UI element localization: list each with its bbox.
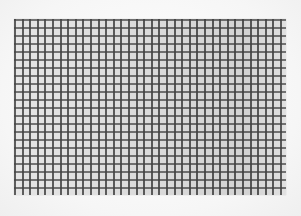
photo-background <box>0 0 301 216</box>
lighting-shade <box>14 19 286 195</box>
grid-paper <box>14 19 286 195</box>
